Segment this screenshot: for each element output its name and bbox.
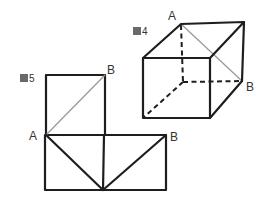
figure-5-caption: 5 bbox=[20, 73, 35, 84]
hidden-edge-vertical bbox=[181, 25, 183, 82]
figure-glyph-icon bbox=[133, 27, 141, 35]
net-bottom-rectangle bbox=[45, 135, 166, 190]
vertex-label-a: A bbox=[168, 9, 176, 23]
cube-back-right-edge bbox=[242, 22, 244, 81]
figure-glyph-icon bbox=[20, 74, 28, 82]
vertex-label-b-right: B bbox=[170, 130, 178, 144]
cube-bottom-right-edge bbox=[210, 81, 242, 118]
hidden-edge-back-bottom bbox=[183, 81, 242, 82]
vertex-label-b-top: B bbox=[107, 63, 115, 77]
figure-5-number: 5 bbox=[29, 73, 35, 84]
diagonal-bottom-mid-b bbox=[103, 135, 166, 190]
diagram-canvas: 4 A B 5 A B bbox=[0, 0, 266, 201]
vertex-label-a: A bbox=[29, 129, 37, 143]
figure-4-number: 4 bbox=[142, 26, 148, 37]
figure-5-net: 5 A B B bbox=[20, 63, 178, 190]
vertex-label-b: B bbox=[246, 80, 254, 94]
figure-4-caption: 4 bbox=[133, 26, 148, 37]
cube-top-face bbox=[143, 22, 244, 58]
net-middle-divider bbox=[103, 135, 104, 190]
figure-4-cube: 4 A B bbox=[133, 9, 254, 118]
hidden-edge-left-bottom bbox=[143, 82, 183, 118]
diagonal-a-top-b bbox=[46, 75, 105, 135]
diagonal-a-bottom-mid bbox=[46, 135, 103, 190]
